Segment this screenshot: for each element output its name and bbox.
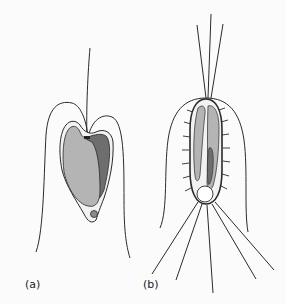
panel-a-organism [36, 48, 130, 258]
panel-b-organism [152, 14, 274, 293]
flagellum-b-1 [197, 25, 206, 98]
vesicle-b [197, 186, 213, 202]
diagram-canvas [0, 0, 286, 304]
flagellum-b-3 [211, 24, 223, 98]
basal-body-a [84, 136, 90, 139]
basal-spines-b [152, 202, 274, 293]
granule-a [91, 211, 98, 218]
panel-label-a: (a) [25, 278, 40, 291]
flagellum-b-2 [208, 14, 211, 98]
flagellum-a [87, 48, 90, 138]
panel-label-b: (b) [143, 278, 159, 291]
